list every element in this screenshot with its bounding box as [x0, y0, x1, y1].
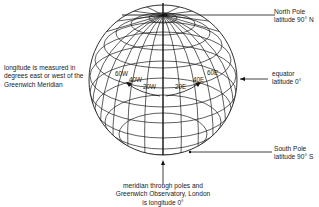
label-60e: 60E [207, 69, 218, 76]
label-60w: 60W [115, 70, 128, 77]
north-pole-label: North Pole latitude 90° N [274, 8, 314, 25]
equator-label: equator latitude 0° [272, 70, 301, 87]
globe-diagram: 60W 40W 20W 20E 40E 60E [0, 0, 319, 207]
label-40e: 40E [193, 76, 204, 83]
longitude-note: longitude is measured in degrees east or… [4, 64, 84, 89]
south-pole-label: South Pole latitude 90° S [274, 145, 313, 162]
label-20w: 20W [143, 83, 156, 90]
label-40w: 40W [129, 76, 142, 83]
prime-meridian-label: meridian through poles and Greenwich Obs… [113, 182, 213, 207]
label-20e: 20E [175, 83, 186, 90]
